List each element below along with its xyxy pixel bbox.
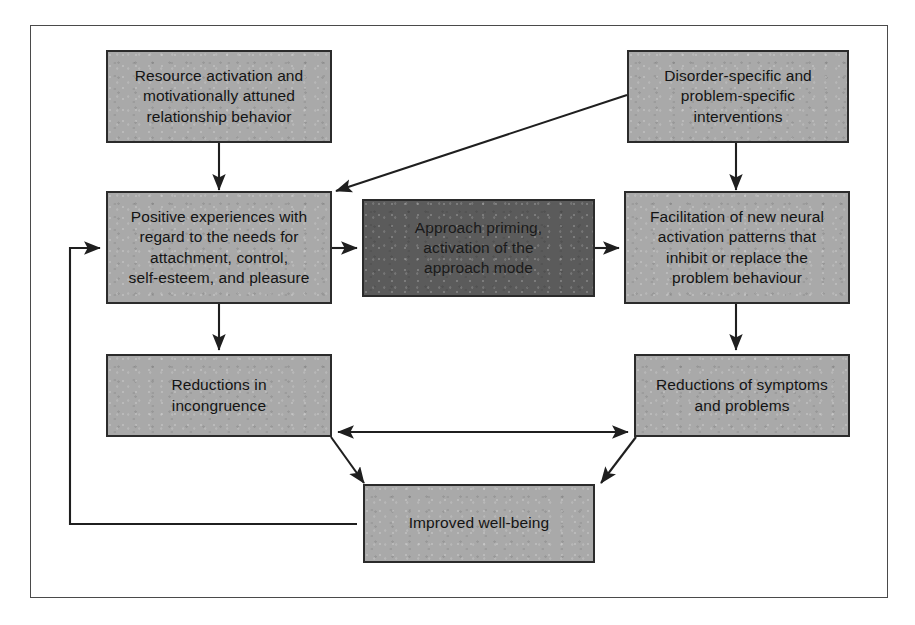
node-positive-experiences-label: Positive experiences with regard to the … — [129, 207, 310, 288]
node-reductions-in-incongruence[interactable]: Reductions in incongruence — [106, 354, 332, 437]
diagram-canvas: Resource activation and motivationally a… — [0, 0, 915, 625]
node-disorder-specific-interventions-label: Disorder-specific and problem-specific i… — [664, 66, 812, 126]
node-improved-well-being[interactable]: Improved well-being — [363, 484, 595, 563]
node-positive-experiences[interactable]: Positive experiences with regard to the … — [106, 191, 332, 304]
node-reductions-of-symptoms-label: Reductions of symptoms and problems — [656, 375, 828, 415]
node-reductions-of-symptoms[interactable]: Reductions of symptoms and problems — [634, 354, 850, 437]
node-neural-activation-patterns-label: Facilitation of new neural activation pa… — [650, 207, 824, 288]
node-improved-well-being-label: Improved well-being — [409, 513, 550, 533]
node-approach-priming-label: Approach priming, activation of the appr… — [415, 218, 543, 278]
node-disorder-specific-interventions[interactable]: Disorder-specific and problem-specific i… — [627, 50, 849, 143]
node-resource-activation[interactable]: Resource activation and motivationally a… — [106, 50, 332, 143]
node-reductions-in-incongruence-label: Reductions in incongruence — [171, 375, 266, 415]
node-approach-priming[interactable]: Approach priming, activation of the appr… — [362, 199, 595, 297]
node-resource-activation-label: Resource activation and motivationally a… — [135, 66, 304, 126]
node-neural-activation-patterns[interactable]: Facilitation of new neural activation pa… — [624, 191, 850, 304]
